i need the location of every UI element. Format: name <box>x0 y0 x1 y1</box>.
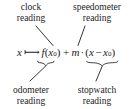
label-speedometer-line1: speedometer <box>73 2 121 12</box>
label-speedometer-reading: speedometer reading <box>62 2 132 23</box>
formula-minus: − <box>95 46 101 58</box>
label-clock-line1: clock <box>21 2 42 12</box>
leader-line-stopwatch <box>96 66 102 81</box>
formula-slope-m: m <box>72 46 80 58</box>
label-speedometer-line2: reading <box>62 13 132 24</box>
mapsto-icon: ⟼ <box>22 46 42 59</box>
leader-line-clock <box>36 26 53 46</box>
label-clock-reading: clock reading <box>0 2 62 23</box>
label-stopwatch-line2: reading <box>62 96 132 107</box>
label-stopwatch-reading: stopwatch reading <box>62 85 132 106</box>
formula-paren-close-2: ) <box>111 46 115 58</box>
label-clock-line2: reading <box>0 13 62 24</box>
formula-expression: x ⟼ f ( x 0 ) + m · ( x − x 0 ) <box>0 46 132 64</box>
formula-input-x: x <box>89 46 94 58</box>
formula-paren-close-1: ) <box>57 46 61 58</box>
label-stopwatch-line1: stopwatch <box>78 85 117 95</box>
leader-line-speedometer <box>78 26 85 46</box>
formula-plus: + <box>63 46 69 58</box>
label-odometer-reading: odometer reading <box>0 85 62 106</box>
math-diagram: clock reading speedometer reading x ⟼ f … <box>0 0 132 109</box>
label-odometer-line2: reading <box>0 96 62 107</box>
leader-line-odometer <box>30 66 46 81</box>
label-odometer-line1: odometer <box>13 85 49 95</box>
